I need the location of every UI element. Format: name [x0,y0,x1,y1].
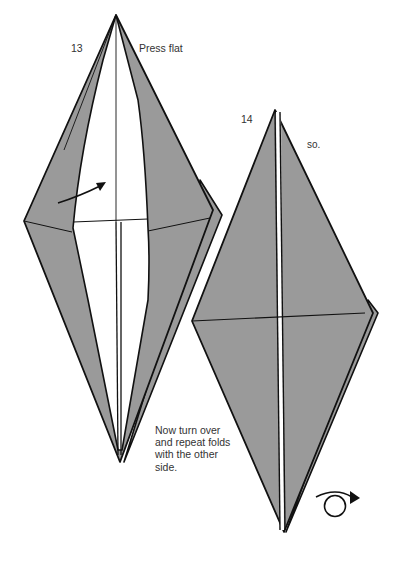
step13-caption: Press flat [139,42,183,54]
step13-figure [24,15,222,462]
step-number-13: 13 [71,42,83,54]
step14-instruction: Now turn over and repeat folds with the … [155,424,235,473]
origami-diagram [0,0,401,566]
step-number-14: 14 [241,113,253,125]
step14-caption: so. [307,139,320,151]
turn-over-icon [316,491,360,517]
